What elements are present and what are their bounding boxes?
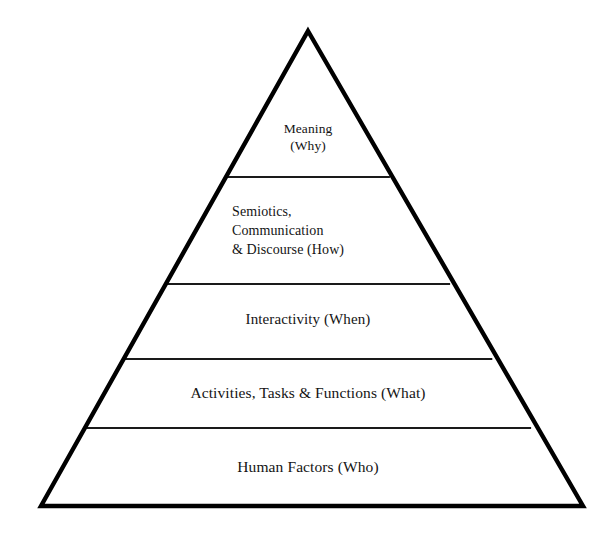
pyramid-tier-label-meaning: Meaning (Why) (284, 120, 333, 154)
pyramid-tier-label-semiotics: Semiotics, Communication & Discourse (Ho… (232, 203, 344, 259)
pyramid-tier-label-interactivity: Interactivity (When) (246, 310, 371, 329)
pyramid-diagram: Meaning (Why) Semiotics, Communication &… (0, 0, 615, 544)
pyramid-outline (41, 31, 583, 506)
pyramid-tier-label-human-factors: Human Factors (Who) (237, 457, 378, 477)
pyramid-tier-label-activities: Activities, Tasks & Functions (What) (190, 383, 425, 403)
